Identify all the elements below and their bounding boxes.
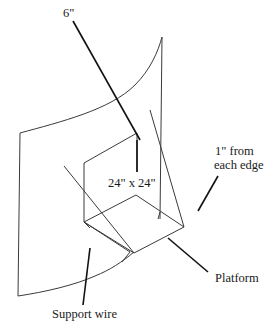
label-one-inch-line1: 1" from [215, 144, 254, 158]
label-platform: Platform [215, 271, 259, 285]
label-square-size: 24" x 24" [108, 176, 156, 190]
square-top-edge [84, 133, 137, 163]
support-wire-right [150, 110, 184, 227]
label-support-wire: Support wire [52, 307, 117, 321]
support-wire-lower [84, 222, 130, 262]
platform-back-edge [84, 195, 184, 227]
panel-bottom-curve [18, 252, 134, 296]
leader-support-wire [83, 248, 90, 305]
label-six-inch: 6" [63, 6, 74, 20]
platform-front-edge [84, 222, 184, 253]
diagram-canvas: 6" 1" from each edge 24" x 24" Platform … [0, 0, 275, 335]
leader-six-inch [73, 21, 140, 140]
label-one-inch-line2: each edge [214, 158, 264, 172]
leader-lines [73, 21, 218, 305]
panel-right-edge [160, 37, 162, 219]
leader-one-inch [198, 176, 218, 211]
panel-left-edge [18, 133, 20, 296]
platform-shape [84, 195, 184, 253]
leader-platform [168, 238, 208, 272]
curved-panel [18, 37, 162, 296]
